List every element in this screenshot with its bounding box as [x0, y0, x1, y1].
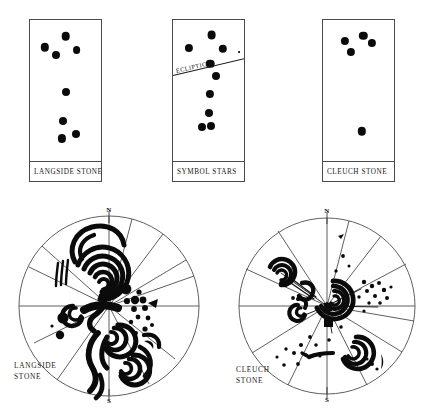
star-dot	[198, 123, 206, 131]
star-dot	[62, 88, 70, 96]
north-label-langside: N	[106, 206, 111, 214]
star-dot	[72, 130, 80, 138]
star-dot	[359, 31, 367, 39]
star-dot	[368, 39, 376, 47]
south-label-langside: S	[107, 397, 111, 405]
star-dot	[218, 45, 226, 53]
motif-langside	[56, 226, 159, 398]
star-dot	[341, 37, 349, 45]
star-dot	[206, 90, 214, 98]
motif-cleuch	[270, 259, 378, 369]
star-dot	[206, 59, 215, 68]
star-dot	[73, 46, 81, 54]
star-dot	[185, 44, 193, 52]
skychart-caption-langside: LANGSIDE STONE	[14, 360, 57, 382]
star-dot	[207, 30, 216, 39]
panel-caption-langside: LANGSIDE STONE	[30, 161, 101, 181]
star-dot	[347, 48, 355, 56]
figure-root: LANGSIDE STONE ECLIPTIC SYMBOL STARS	[0, 0, 430, 411]
panel-cleuch-stone: CLEUCH STONE	[322, 19, 395, 182]
star-dot	[205, 109, 213, 117]
star-dot	[52, 51, 60, 59]
star-dot	[207, 122, 215, 130]
star-dot	[40, 43, 48, 51]
star-dot	[212, 72, 220, 80]
panel-caption-symbol-stars: SYMBOL STARS	[173, 161, 244, 181]
skychart-caption-cleuch: CLEUCH STONE	[236, 364, 270, 386]
north-label-cleuch: N	[324, 207, 329, 215]
star-dot	[58, 134, 66, 142]
star-dot	[59, 117, 67, 125]
panel-symbol-stars: ECLIPTIC SYMBOL STARS	[172, 19, 245, 182]
panel-starfield-cleuch	[323, 20, 394, 161]
panel-caption-cleuch: CLEUCH STONE	[323, 161, 394, 181]
panel-langside-stone: LANGSIDE STONE	[29, 19, 102, 182]
ecliptic-tick-dot	[238, 51, 240, 53]
star-dot	[357, 127, 365, 135]
ecliptic-label: ECLIPTIC	[175, 60, 207, 74]
panel-starfield-symbol: ECLIPTIC	[173, 20, 244, 161]
south-label-cleuch: S	[325, 396, 329, 404]
star-dot	[61, 32, 70, 41]
panel-starfield-langside	[30, 20, 101, 161]
